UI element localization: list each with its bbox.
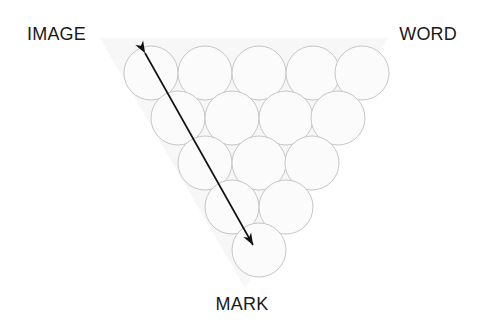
vertex-label-word: WORD [399,25,457,43]
figure-diagram [0,0,484,321]
figure-canvas: IMAGE WORD MARK [0,0,484,321]
vertex-label-image: IMAGE [27,25,86,43]
grid-circle-r5-c1 [232,223,286,277]
vertex-label-mark: MARK [0,295,484,313]
circle-grid [124,46,389,277]
